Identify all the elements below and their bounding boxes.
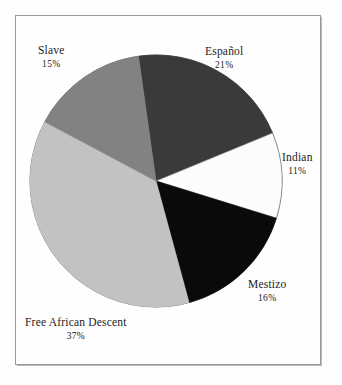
pie-label-espanol-name: Español — [205, 45, 243, 59]
pie-label-mestizo-name: Mestizo — [248, 278, 286, 292]
pie-label-free-african-descent: Free African Descent 37% — [25, 316, 127, 342]
pie-chart-figure: Español 21% Indian 11% Mestizo 16% Free … — [0, 0, 342, 385]
pie-slice-group — [30, 55, 282, 307]
pie-label-slave-percent: 15% — [38, 59, 65, 70]
pie-label-mestizo: Mestizo 16% — [248, 278, 286, 304]
pie-label-slave: Slave 15% — [38, 44, 65, 70]
pie-label-free-african-descent-percent: 37% — [25, 331, 127, 342]
pie-label-indian-percent: 11% — [282, 166, 313, 177]
pie-label-free-african-descent-name: Free African Descent — [25, 316, 127, 330]
pie-label-indian-name: Indian — [282, 151, 313, 165]
pie-label-indian: Indian 11% — [282, 151, 313, 177]
pie-label-slave-name: Slave — [38, 44, 65, 58]
pie-label-espanol: Español 21% — [205, 45, 243, 71]
pie-label-espanol-percent: 21% — [205, 60, 243, 71]
pie-label-mestizo-percent: 16% — [248, 293, 286, 304]
